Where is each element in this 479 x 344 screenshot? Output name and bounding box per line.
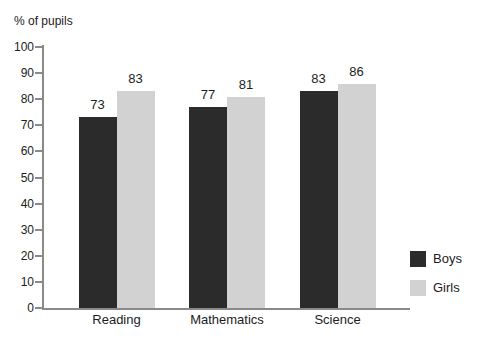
legend-swatch-boys	[410, 251, 426, 267]
value-label-girls-mathematics: 81	[226, 77, 266, 92]
y-tick-label-10: 10	[4, 275, 34, 289]
bar-girls-reading	[117, 91, 155, 308]
y-tick-30	[35, 229, 42, 231]
value-label-boys-science: 83	[299, 71, 339, 86]
y-tick-50	[35, 177, 42, 179]
value-label-girls-reading: 83	[116, 71, 156, 86]
legend-swatch-girls	[410, 280, 426, 296]
y-tick-label-60: 60	[4, 144, 34, 158]
y-tick-90	[35, 72, 42, 74]
y-tick-label-80: 80	[4, 92, 34, 106]
bar-girls-science	[338, 84, 376, 308]
y-tick-60	[35, 150, 42, 152]
y-tick-20	[35, 255, 42, 257]
y-tick-label-50: 50	[4, 171, 34, 185]
y-tick-80	[35, 98, 42, 100]
x-label-science: Science	[273, 312, 403, 328]
y-tick-label-90: 90	[4, 66, 34, 80]
x-axis-line	[42, 308, 410, 310]
y-tick-100	[35, 46, 42, 48]
bar-girls-mathematics	[227, 97, 265, 308]
y-tick-40	[35, 203, 42, 205]
value-label-girls-science: 86	[337, 64, 377, 79]
bar-boys-science	[300, 91, 338, 308]
y-axis-line	[42, 45, 44, 310]
legend-label-girls: Girls	[433, 280, 460, 296]
y-tick-label-20: 20	[4, 249, 34, 263]
y-tick-label-0: 0	[4, 301, 34, 315]
legend-label-boys: Boys	[433, 251, 462, 267]
y-tick-label-70: 70	[4, 118, 34, 132]
value-label-boys-mathematics: 77	[188, 87, 228, 102]
y-tick-label-40: 40	[4, 197, 34, 211]
y-tick-70	[35, 124, 42, 126]
y-tick-10	[35, 281, 42, 283]
value-label-boys-reading: 73	[78, 97, 118, 112]
y-tick-label-100: 100	[4, 40, 34, 54]
bar-chart: % of pupils 01020304050607080901007383Re…	[0, 0, 479, 344]
bar-boys-mathematics	[189, 107, 227, 308]
y-tick-label-30: 30	[4, 223, 34, 237]
y-axis-title: % of pupils	[14, 14, 73, 28]
y-tick-0	[35, 307, 42, 309]
bar-boys-reading	[79, 117, 117, 308]
